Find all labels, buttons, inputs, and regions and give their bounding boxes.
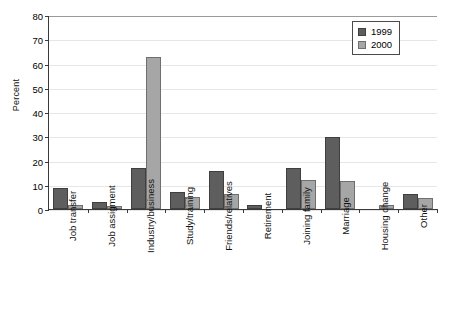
x-axis-label: Housing change [379,182,390,251]
bar-group [49,16,88,209]
bar-group [243,16,282,209]
x-axis-label-cell: Retirement [243,212,282,311]
x-axis-label-cell: Industry/business [126,212,165,311]
x-axis-label-cell: Job transfer [48,212,87,311]
bar-group [282,16,321,209]
x-axis-label-cell: Friends/relatives [204,212,243,311]
x-axis-label-cell: Job assigment [87,212,126,311]
x-axis-label: Industry/business [145,179,156,253]
x-axis-tick-mark [437,209,438,213]
x-axis-label: Joining family [301,187,312,245]
x-axis-label: Marriage [340,197,351,235]
y-axis-tick-mark [45,210,49,211]
x-axis-label: Friends/relatives [223,181,234,251]
x-axis-label: Job transfer [67,191,78,241]
x-axis-label-cell: Housing change [359,212,398,311]
bar-1999 [92,202,107,209]
legend-label: 2000 [371,39,392,50]
x-axis-label: Retirement [262,193,273,239]
legend-label: 1999 [371,26,392,37]
bar-1999 [209,171,224,209]
legend-item: 1999 [358,25,392,38]
bar-1999 [131,168,146,209]
bar-1999 [403,194,418,209]
x-axis-labels: Job transferJob assigmentIndustry/busine… [48,212,437,311]
chart-legend: 19992000 [352,21,400,55]
y-axis-title: Percent [11,55,21,135]
legend-swatch-icon [358,41,366,49]
x-axis-label: Job assigment [106,185,117,246]
x-axis-label-cell: Marriage [320,212,359,311]
x-axis-label-cell: Study/training [165,212,204,311]
legend-swatch-icon [358,28,366,36]
legend-item: 2000 [358,38,392,51]
x-axis-label-cell: Joining family [281,212,320,311]
bar-group [398,16,437,209]
bar-1999 [286,168,301,209]
bar-1999 [247,205,262,209]
bar-group [165,16,204,209]
x-axis-label: Study/training [184,187,195,245]
bar-1999 [170,192,185,209]
bar-chart: Percent 01020304050607080 Job transferJo… [0,0,449,311]
bar-group [88,16,127,209]
bar-1999 [325,137,340,209]
x-axis-label-cell: Other [398,212,437,311]
x-axis-label: Other [418,204,429,228]
